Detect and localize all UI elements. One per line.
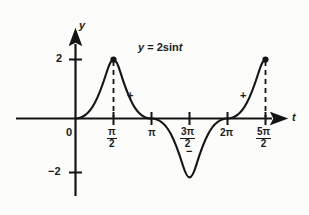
x-tick-label-pi-over-2-denominator: 2	[107, 139, 117, 150]
equation-label: y = 2sint	[138, 42, 182, 53]
sine-curve-plot	[0, 0, 309, 215]
x-axis-label: t	[292, 112, 296, 123]
x-tick-label-2pi: 2π	[220, 128, 233, 138]
sign-plus-second-arch: +	[240, 90, 246, 101]
equation-t-symbol: t	[179, 41, 183, 53]
x-tick-label-pi-over-2: π 2	[107, 127, 117, 149]
sign-minus-trough: −	[186, 146, 192, 157]
y-tick-label-2: 2	[56, 53, 62, 64]
y-axis-label: y	[79, 20, 85, 31]
endpoint-marker-5pi-over-2	[262, 57, 268, 63]
x-tick-label-3pi-over-2-numerator: 3π	[180, 127, 195, 139]
origin-label: 0	[66, 127, 72, 138]
peak-marker-pi-over-2	[110, 57, 116, 63]
x-tick-label-5pi-over-2-numerator: 5π	[256, 127, 271, 139]
x-tick-label-pi: π	[148, 128, 156, 138]
y-tick-label-minus-2: −2	[48, 166, 61, 177]
sign-plus-first-arch: +	[127, 90, 133, 101]
x-tick-label-5pi-over-2: 5π 2	[256, 127, 271, 149]
figure-canvas: y t 0 2 −2 y = 2sint π 2 π 3π 2 2π 5π 2 …	[0, 0, 309, 215]
x-tick-label-pi-over-2-numerator: π	[107, 127, 117, 139]
equation-body: = 2sin	[144, 41, 179, 53]
x-tick-label-5pi-over-2-denominator: 2	[256, 139, 271, 150]
